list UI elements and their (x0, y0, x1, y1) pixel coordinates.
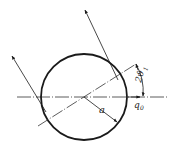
ray-upper-arrow (85, 10, 118, 80)
diagram-canvas: a 2ϑ 1 q 0 (0, 0, 175, 146)
radius-label: a (99, 104, 105, 115)
ray-left-arrow (12, 56, 46, 112)
svg-text:1: 1 (141, 66, 149, 72)
incident-label-sub: 0 (140, 104, 144, 111)
angle-label: 2ϑ 1 (133, 65, 149, 85)
